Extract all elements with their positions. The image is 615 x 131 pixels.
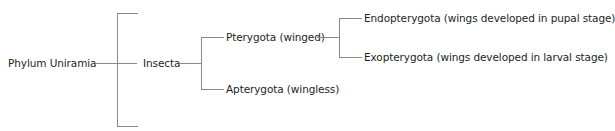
- branch-line: [201, 37, 224, 38]
- branch-line: [201, 89, 224, 90]
- branch-line: [339, 18, 362, 19]
- branch-line: [339, 57, 362, 58]
- node-insecta: Insecta: [143, 57, 180, 70]
- connector-line: [180, 63, 201, 64]
- node-apterygota: Apterygota (wingless): [226, 83, 339, 96]
- node-pterygota: Pterygota (winged): [226, 31, 325, 44]
- node-exopterygota: Exopterygota (wings developed in larval …: [364, 51, 608, 64]
- bracket-vertical: [201, 37, 202, 90]
- connector-line: [95, 63, 137, 64]
- bracket-vertical: [339, 18, 340, 58]
- bracket-vertical: [117, 13, 118, 127]
- node-phylum-uniramia: Phylum Uniramia: [8, 57, 96, 70]
- connector-line: [317, 37, 339, 38]
- node-endopterygota: Endopterygota (wings developed in pupal …: [364, 12, 615, 25]
- bracket-bottom: [117, 126, 138, 127]
- bracket-top: [117, 13, 138, 14]
